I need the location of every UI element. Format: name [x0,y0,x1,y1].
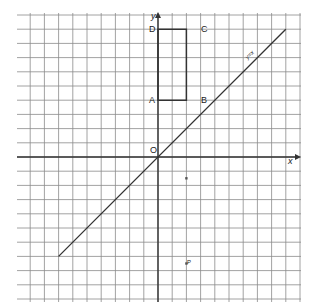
origin-label: O [150,146,157,155]
point-mark [185,177,187,179]
point-label-p: P [187,259,191,265]
y-axis-label: y [151,12,156,21]
x-axis-label: x [288,157,293,166]
vertex-label-c: C [201,25,208,34]
coordinate-diagram: y x O A B C D y=x P [0,0,313,306]
vertex-label-b: B [201,96,207,105]
vertex-label-a: A [149,96,155,105]
vertex-label-d: D [149,25,156,34]
